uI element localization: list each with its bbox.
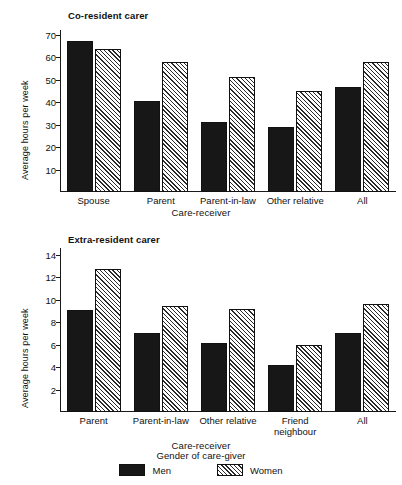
bar-men-parent-in-law: [201, 122, 227, 192]
bar-women-other-relative: [229, 309, 255, 412]
y-tick-label: 60: [45, 52, 56, 63]
y-tick-mark: [56, 390, 60, 391]
bar-women-friend-neighbour: [296, 345, 322, 412]
legend-item-women: Women: [217, 464, 283, 476]
bar-men-parent-in-law: [134, 333, 160, 412]
y-tick-mark: [56, 277, 60, 278]
legend-title: Gender of care-giver: [0, 450, 402, 461]
y-tick-mark: [56, 255, 60, 256]
chart-panel-extra-resident: Extra-resident carer Average hours per w…: [0, 228, 402, 448]
legend-swatch-men: [119, 464, 145, 476]
y-tick-mark: [56, 57, 60, 58]
chart-panel-co-resident: Co-resident carer Average hours per week…: [0, 0, 402, 230]
x-category-label: Spouse: [77, 195, 109, 206]
x-category-label: Parent: [147, 195, 175, 206]
y-tick-mark: [56, 35, 60, 36]
bar-men-parent: [67, 310, 93, 412]
bar-women-parent: [162, 62, 188, 193]
bar-men-other-relative: [201, 343, 227, 412]
x-category-label: Other relative: [199, 415, 256, 426]
y-axis-label-top: Average hours per week: [20, 80, 30, 180]
x-category-label: Other relative: [267, 195, 324, 206]
y-tick-mark: [56, 147, 60, 148]
y-tick-mark: [56, 170, 60, 171]
bar-men-friend-neighbour: [268, 365, 294, 412]
bar-men-spouse: [67, 41, 93, 192]
legend-label-women: Women: [250, 465, 283, 476]
y-tick-label: 40: [45, 97, 56, 108]
legend: Gender of care-giver MenWomen: [0, 450, 402, 461]
bar-men-other-relative: [268, 127, 294, 192]
bar-men-all: [335, 333, 361, 412]
legend-item-men: Men: [119, 464, 170, 476]
y-axis-label-bottom: Average hours per week: [20, 308, 30, 408]
y-tick-mark: [56, 80, 60, 81]
x-category-label: All: [357, 195, 368, 206]
y-tick-label: 10: [45, 164, 56, 175]
bar-men-parent: [134, 101, 160, 192]
chart-title-bottom: Extra-resident carer: [68, 234, 160, 245]
y-tick-label: 20: [45, 142, 56, 153]
bar-women-spouse: [95, 49, 121, 192]
bar-women-all: [363, 62, 389, 193]
x-axis-label-top: Care-receiver: [0, 207, 402, 218]
legend-items: MenWomen: [0, 464, 402, 476]
x-category-label: Parent: [80, 415, 108, 426]
y-tick-label: 8: [51, 317, 56, 328]
y-tick-mark: [56, 102, 60, 103]
y-tick-label: 14: [45, 249, 56, 260]
bar-women-other-relative: [296, 91, 322, 192]
y-tick-label: 4: [51, 362, 56, 373]
bar-women-parent-in-law: [162, 306, 188, 412]
bar-women-all: [363, 304, 389, 412]
y-tick-mark: [56, 367, 60, 368]
y-tick-mark: [56, 345, 60, 346]
bar-women-parent: [95, 269, 121, 412]
plot-area-top: 10203040506070: [60, 30, 396, 192]
y-tick-label: 70: [45, 29, 56, 40]
figure-root: Co-resident carer Average hours per week…: [0, 0, 402, 485]
y-axis-line-top: [60, 30, 61, 192]
x-category-label: Friendneighbour: [274, 415, 316, 437]
y-tick-label: 10: [45, 294, 56, 305]
y-tick-label: 2: [51, 384, 56, 395]
y-tick-mark: [56, 300, 60, 301]
y-axis-line-bottom: [60, 248, 61, 412]
legend-label-men: Men: [152, 465, 170, 476]
chart-title-top: Co-resident carer: [68, 10, 148, 21]
bar-women-parent-in-law: [229, 77, 255, 192]
x-category-label: Parent-in-law: [133, 415, 189, 426]
y-tick-label: 30: [45, 119, 56, 130]
y-tick-label: 50: [45, 74, 56, 85]
y-tick-mark: [56, 322, 60, 323]
legend-swatch-women: [217, 464, 243, 476]
plot-area-bottom: 2468101214: [60, 248, 396, 412]
y-tick-label: 6: [51, 339, 56, 350]
x-category-label: Parent-in-law: [200, 195, 256, 206]
bar-men-all: [335, 87, 361, 192]
y-tick-label: 12: [45, 272, 56, 283]
x-category-label: All: [357, 415, 368, 426]
y-tick-mark: [56, 125, 60, 126]
